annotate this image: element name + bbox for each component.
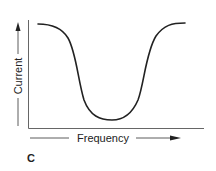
y-arrow-up-icon bbox=[16, 22, 21, 31]
y-axis-label-group: Current bbox=[12, 22, 24, 126]
current-curve bbox=[38, 23, 185, 120]
panel-label: C bbox=[27, 152, 35, 164]
x-axis-label: Frequency bbox=[77, 132, 129, 144]
y-axis-label: Current bbox=[12, 58, 24, 95]
current-vs-frequency-diagram: Current Frequency C bbox=[0, 0, 216, 171]
x-arrow-right-icon bbox=[170, 136, 181, 141]
x-axis-label-group: Frequency bbox=[30, 132, 181, 144]
